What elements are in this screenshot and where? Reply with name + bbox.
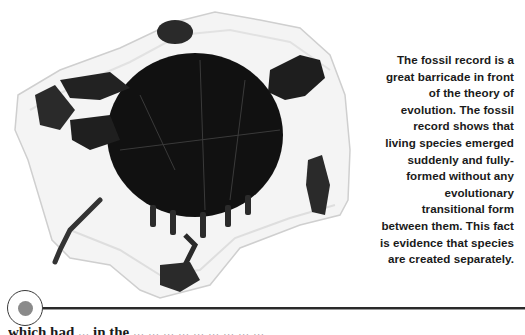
bullet-dot [18,301,33,316]
caption-line: are created separately. [364,251,514,268]
fossil-illustration [0,0,370,300]
figure-caption: The fossil record is a great barricade i… [364,52,514,268]
caption-line: is evidence that species [364,235,514,252]
caption-line: suddenly and fully- [364,152,514,169]
caption-line: living species emerged [364,135,514,152]
caption-line: transitional form [364,201,514,218]
caption-line: The fossil record is a [364,52,514,69]
fossil-turtle-image [0,0,370,300]
document-page: The fossil record is a great barricade i… [0,0,525,335]
caption-line: of the theory of [364,85,514,102]
caption-line: between them. This fact [364,218,514,235]
caption-line: record shows that [364,118,514,135]
caption-line: evolutionary [364,185,514,202]
caption-line: formed without any [364,168,514,185]
caption-line: evolution. The fossil [364,102,514,119]
caption-line: great barricade in front [364,69,514,86]
horizontal-rule [43,307,525,310]
body-text-partial-line: which had ... in the ... ... ... ... ...… [8,322,523,335]
section-divider [0,290,525,324]
circle-bullet-icon [7,290,43,326]
